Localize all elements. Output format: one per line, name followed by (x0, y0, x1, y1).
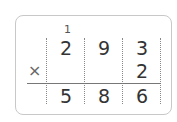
carry-digit: 1 (64, 24, 68, 36)
multiplicand-tens: 9 (85, 38, 123, 58)
times-sign: × (28, 61, 41, 80)
multiplicand-hundreds: 2 (47, 38, 85, 58)
multiplier-ones: 2 (123, 61, 161, 81)
product-hundreds: 5 (47, 86, 85, 106)
product-ones: 6 (123, 86, 161, 106)
product-tens: 8 (85, 86, 123, 106)
result-line (27, 83, 161, 84)
multiplicand-ones: 3 (123, 38, 161, 58)
